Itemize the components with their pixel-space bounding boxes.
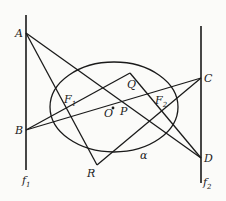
label-C: C	[204, 72, 213, 85]
label-P: P	[119, 105, 128, 118]
segment-CR	[97, 78, 201, 165]
label-D: D	[203, 152, 213, 165]
label-f1: f1	[21, 174, 31, 189]
label-f2: f2	[202, 176, 212, 191]
label-O: O	[104, 107, 113, 120]
segment-AR	[26, 33, 97, 165]
label-B: B	[14, 124, 23, 137]
segment-BQ	[26, 73, 130, 130]
label-F2: F2	[154, 94, 168, 109]
label-R: R	[86, 167, 95, 180]
label-Q: Q	[127, 78, 136, 91]
label-A: A	[14, 27, 23, 40]
geometry-diagram: A B C D Q R P O F1 F2 α f1 f2	[0, 0, 226, 201]
label-F1: F1	[63, 93, 76, 108]
label-alpha: α	[140, 149, 148, 162]
